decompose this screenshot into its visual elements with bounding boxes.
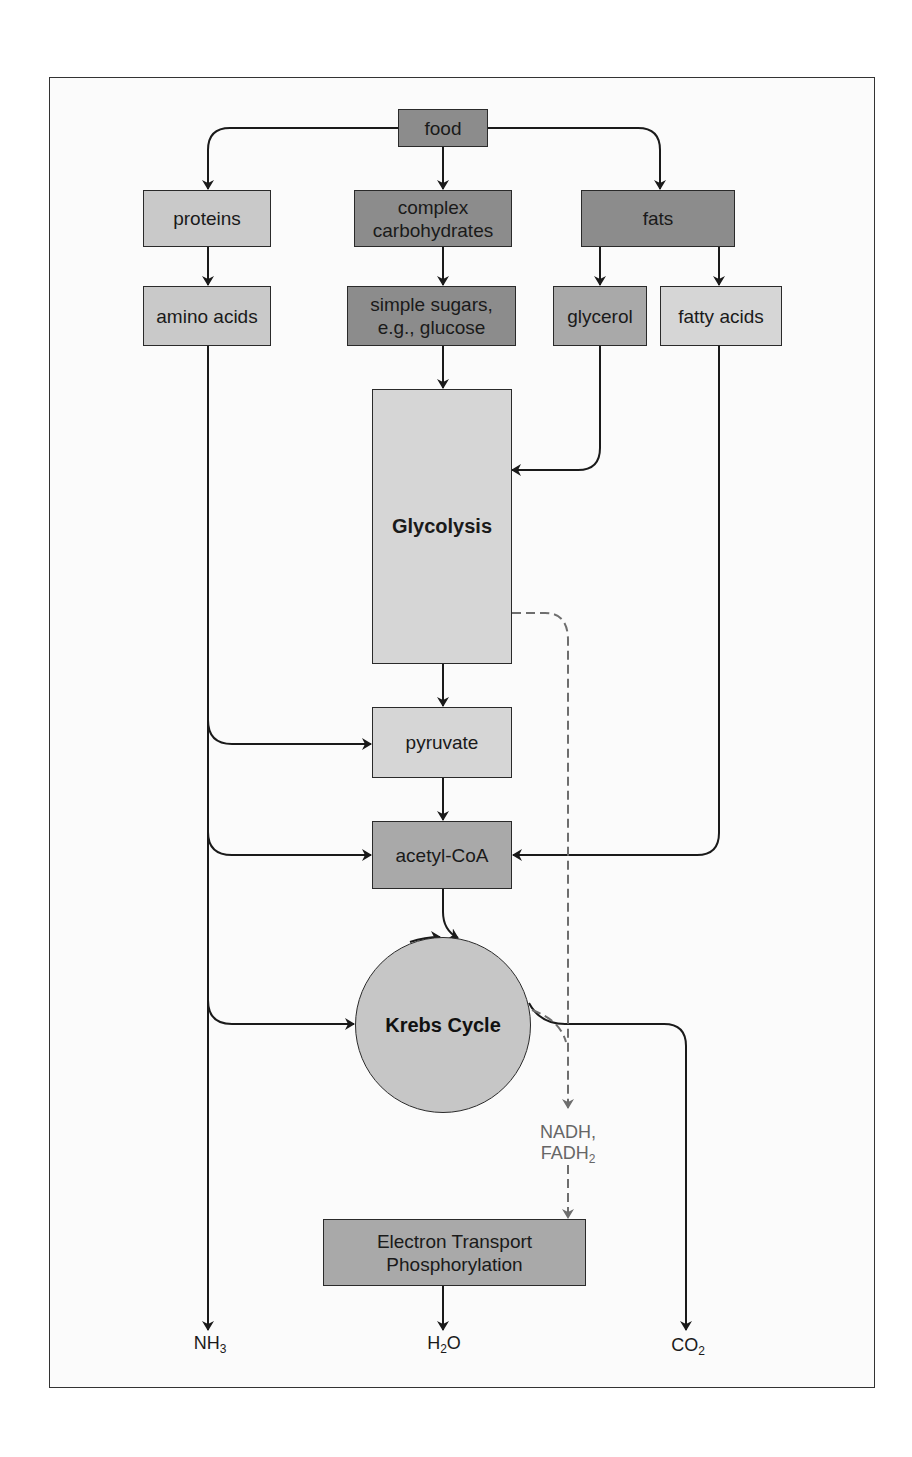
- complex-carbs-line2: carbohydrates: [373, 219, 493, 242]
- node-proteins-label: proteins: [173, 207, 241, 230]
- node-simple-sugars: simple sugars, e.g., glucose: [347, 286, 516, 346]
- node-amino-acids-label: amino acids: [156, 305, 257, 328]
- nh3-base: NH: [194, 1333, 220, 1353]
- co2-base: CO: [671, 1335, 698, 1355]
- node-fats-label: fats: [643, 207, 674, 230]
- node-pyruvate: pyruvate: [372, 707, 512, 778]
- node-acetyl-coa: acetyl-CoA: [372, 821, 512, 889]
- node-acetyl-coa-label: acetyl-CoA: [396, 844, 489, 867]
- complex-carbs-line1: complex: [398, 196, 469, 219]
- node-glycerol-label: glycerol: [567, 305, 632, 328]
- output-h2o: H2O: [422, 1333, 466, 1356]
- h2o-subscript: 2: [440, 1342, 447, 1356]
- h2o-h: H: [427, 1333, 440, 1353]
- fadh2-base: FADH: [541, 1143, 589, 1163]
- etp-line1: Electron Transport: [377, 1230, 532, 1253]
- carrier-label-nadh-fadh2: NADH, FADH2: [530, 1122, 606, 1170]
- node-krebs-cycle: Krebs Cycle: [355, 937, 531, 1113]
- node-glycolysis-label: Glycolysis: [392, 515, 492, 538]
- nadh-text: NADH,: [530, 1122, 606, 1143]
- output-nh3: NH3: [188, 1333, 232, 1356]
- node-fatty-acids-label: fatty acids: [678, 305, 764, 328]
- fadh2-subscript: 2: [589, 1152, 596, 1166]
- simple-sugars-line1: simple sugars,: [370, 293, 493, 316]
- node-proteins: proteins: [143, 190, 271, 247]
- node-food: food: [398, 109, 488, 147]
- h2o-o: O: [447, 1333, 461, 1353]
- node-fatty-acids: fatty acids: [660, 286, 782, 346]
- co2-subscript: 2: [698, 1344, 705, 1358]
- nh3-subscript: 3: [220, 1342, 227, 1356]
- output-co2: CO2: [664, 1335, 712, 1358]
- node-glycolysis: Glycolysis: [372, 389, 512, 664]
- etp-line2: Phosphorylation: [386, 1253, 522, 1276]
- node-krebs-cycle-label: Krebs Cycle: [385, 1014, 501, 1037]
- simple-sugars-line2: e.g., glucose: [378, 316, 486, 339]
- node-amino-acids: amino acids: [143, 286, 271, 346]
- node-complex-carbohydrates: complex carbohydrates: [354, 190, 512, 247]
- node-electron-transport-phosphorylation: Electron Transport Phosphorylation: [323, 1219, 586, 1286]
- node-glycerol: glycerol: [553, 286, 647, 346]
- node-food-label: food: [425, 117, 462, 140]
- node-fats: fats: [581, 190, 735, 247]
- node-pyruvate-label: pyruvate: [406, 731, 479, 754]
- fadh2-text: FADH2: [530, 1143, 606, 1170]
